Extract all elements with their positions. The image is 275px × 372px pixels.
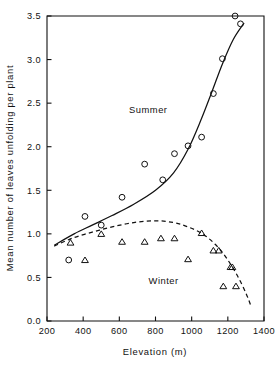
plot-background (0, 0, 275, 372)
x-axis-tick-label: 1000 (181, 326, 203, 336)
figure-container: 0.00.51.01.52.02.53.03.5 200400600800100… (0, 0, 275, 372)
series-label-winter: Winter (149, 275, 179, 286)
x-axis-title: Elevation (m) (123, 346, 187, 357)
y-axis-tick-label: 3.0 (27, 55, 41, 65)
scatter-plot-svg: 0.00.51.01.52.02.53.03.5 200400600800100… (0, 0, 275, 372)
y-axis-title: Mean number of leaves unfolding per plan… (4, 65, 15, 271)
y-axis-tick-label: 2.0 (27, 142, 41, 152)
x-axis-tick-label: 1400 (253, 326, 275, 336)
y-axis-tick-label: 2.5 (27, 98, 41, 108)
y-axis-tick-label: 1.5 (27, 186, 41, 196)
x-axis-tick-label: 200 (39, 326, 56, 336)
x-axis-tick-label: 600 (111, 326, 128, 336)
series-label-summer: Summer (129, 104, 167, 115)
x-axis-tick-label: 400 (75, 326, 92, 336)
y-axis-tick-label: 3.5 (27, 11, 41, 21)
x-axis-tick-label: 1200 (217, 326, 239, 336)
y-axis-tick-label: 1.0 (27, 229, 41, 239)
y-axis-tick-label: 0.5 (27, 273, 41, 283)
x-axis-tick-label: 800 (147, 326, 164, 336)
